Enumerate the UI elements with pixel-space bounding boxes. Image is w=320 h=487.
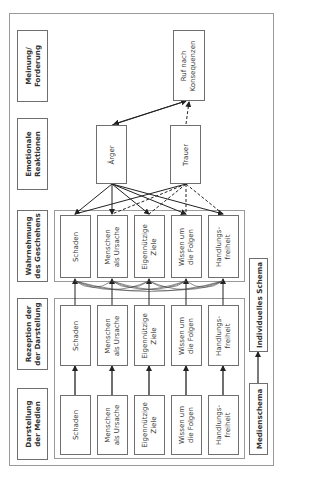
darstellung-ziele: Eigennützige Ziele (134, 395, 165, 455)
emotion-trauer: Trauer (170, 125, 201, 184)
outcome-ruf-nach-konsequenzen: Ruf nach Konsequenzen (173, 30, 205, 101)
factor-text: Eigennützige Ziele (141, 402, 159, 448)
rezeption-wissen: Wissen um die Folgen (171, 305, 202, 366)
media-schema: Medienschema (249, 383, 268, 455)
factor-text: Menschen als Ursache (104, 315, 122, 356)
emotion-text: Ärger (107, 145, 116, 164)
emotion-aerger: Ärger (96, 125, 127, 184)
darstellung-freiheit: Handlungs- freiheit (208, 395, 239, 455)
factor-text: Schaden (71, 231, 80, 261)
rezeption-ziele: Eigennützige Ziele (134, 305, 165, 366)
factor-text: Handlungs- freiheit (215, 405, 233, 445)
wahrnehmung-schaden: Schaden (60, 215, 91, 278)
factor-text: Eigennützige Ziele (141, 313, 159, 359)
factor-text: Schaden (71, 410, 80, 440)
factor-text: Wissen um die Folgen (178, 406, 196, 444)
rezeption-schaden: Schaden (60, 305, 91, 366)
factor-text: Wissen um die Folgen (178, 227, 196, 265)
rezeption-freiheit: Handlungs- freiheit (208, 305, 239, 366)
wahrnehmung-freiheit: Handlungs- freiheit (208, 215, 239, 278)
media-schema-text: Medienschema (254, 389, 263, 450)
factor-text: Menschen als Ursache (104, 226, 122, 267)
rezeption-menschen: Menschen als Ursache (97, 305, 128, 366)
wahrnehmung-menschen: Menschen als Ursache (97, 215, 128, 278)
darstellung-schaden: Schaden (60, 395, 91, 455)
factor-text: Schaden (71, 320, 80, 350)
factor-text: Eigennützige Ziele (141, 224, 159, 270)
outcome-text: Ruf nach Konsequenzen (180, 40, 198, 91)
factor-text: Handlungs- freiheit (215, 227, 233, 267)
emotion-text: Trauer (181, 143, 190, 165)
darstellung-wissen: Wissen um die Folgen (171, 395, 202, 455)
factor-text: Wissen um die Folgen (178, 316, 196, 354)
darstellung-menschen: Menschen als Ursache (97, 395, 128, 455)
factor-text: Handlungs- freiheit (215, 316, 233, 356)
individual-schema-text: Individuelles Schema (254, 262, 263, 348)
factor-text: Menschen als Ursache (104, 405, 122, 446)
individual-schema: Individuelles Schema (249, 258, 268, 352)
wahrnehmung-wissen: Wissen um die Folgen (171, 215, 202, 278)
wahrnehmung-ziele: Eigennützige Ziele (134, 215, 165, 278)
